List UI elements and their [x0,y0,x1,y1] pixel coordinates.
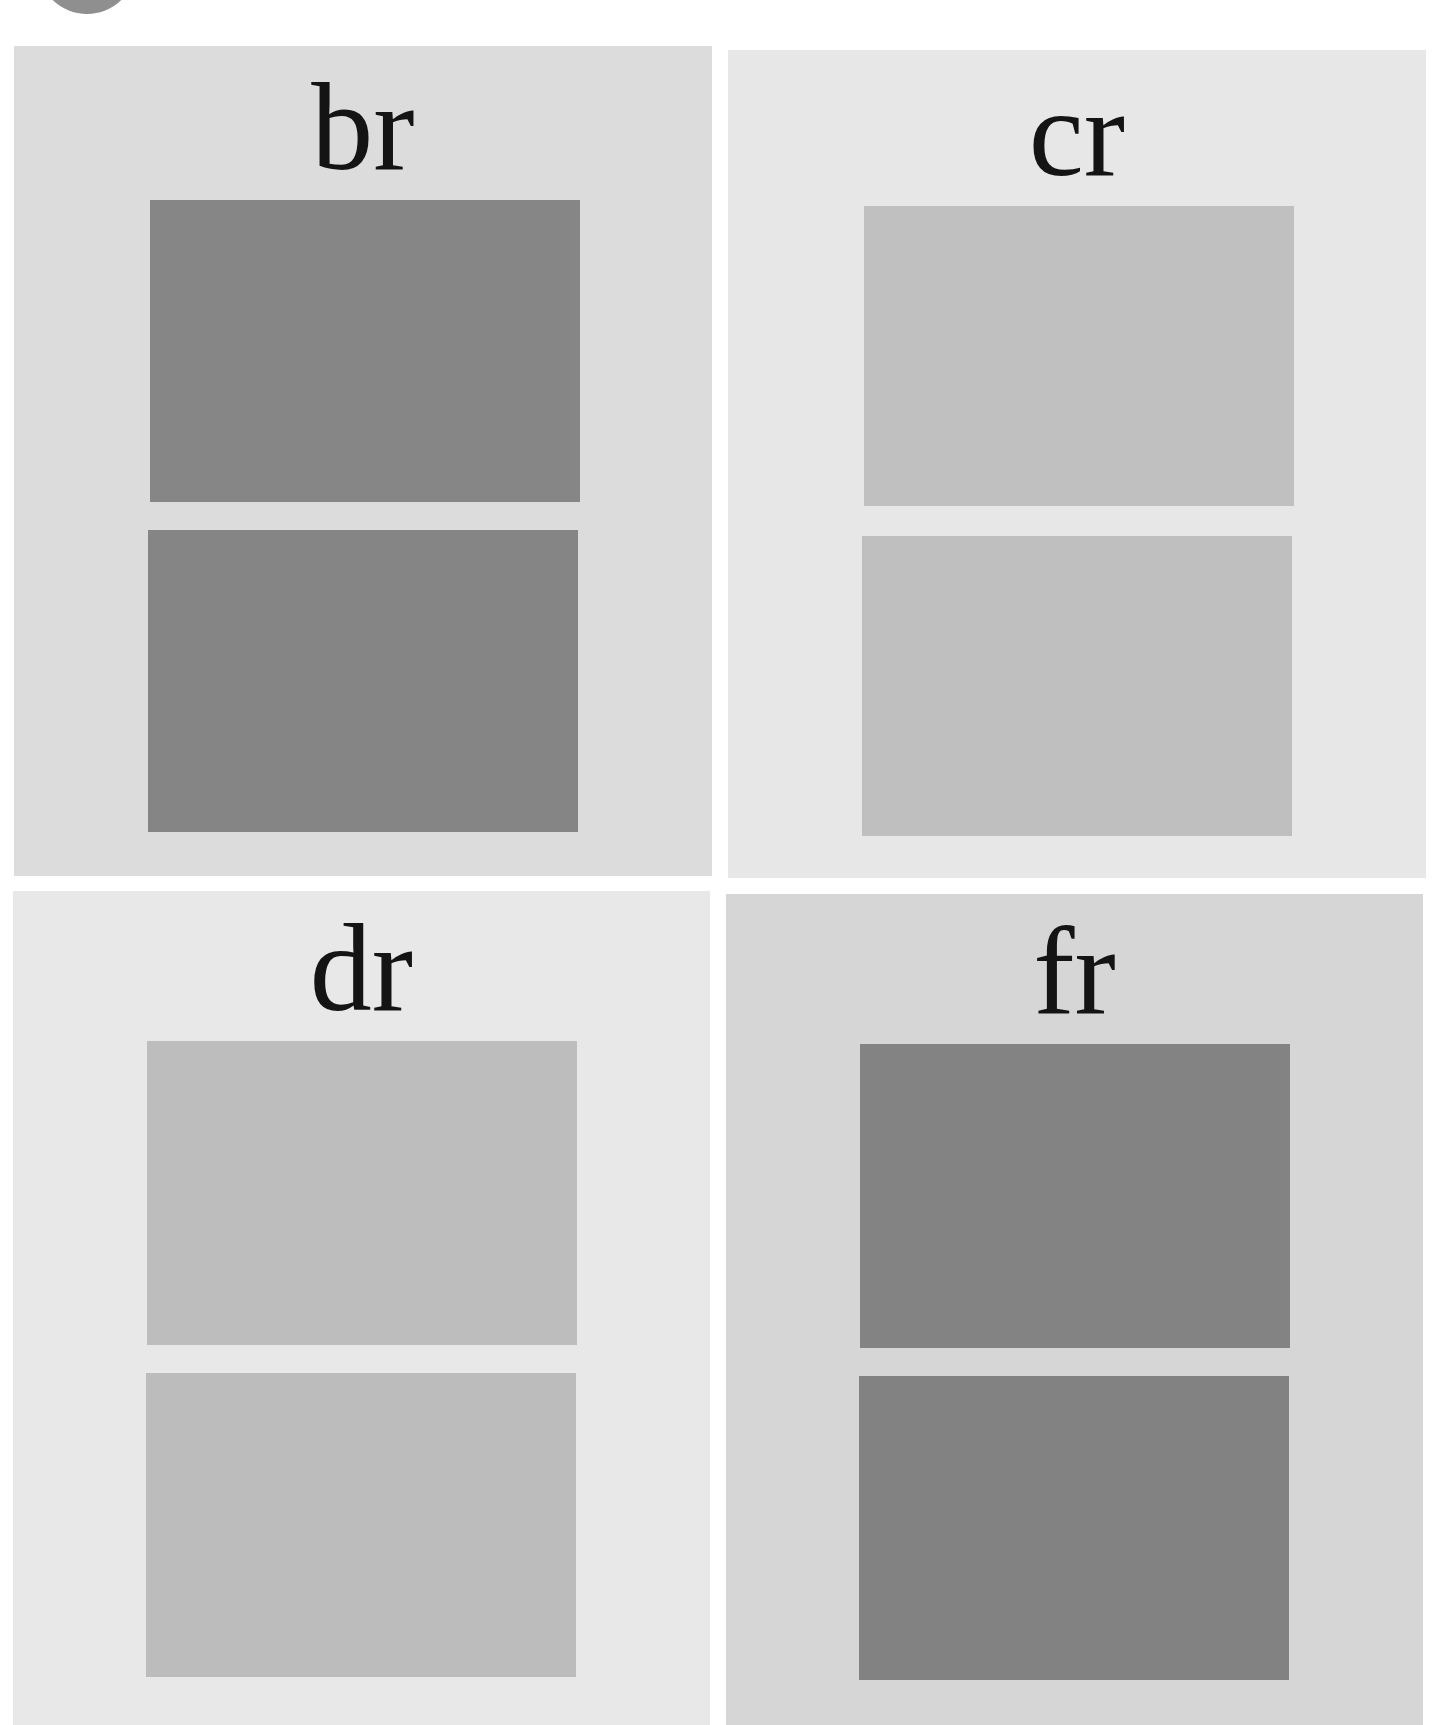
panel-label: br [14,66,712,190]
swatch-top [150,200,580,502]
swatch-top [147,1041,577,1345]
figure-badge [38,0,136,14]
swatch-top [864,206,1294,506]
panel-br: br [14,46,712,876]
swatch-top [860,1044,1290,1348]
swatch-bottom [859,1376,1289,1680]
panel-label: cr [728,72,1426,196]
panel-label: fr [726,910,1423,1034]
panel-label: dr [13,907,710,1031]
panel-fr: fr [726,894,1423,1725]
swatch-bottom [146,1373,576,1677]
swatch-bottom [148,530,578,832]
panel-cr: cr [728,50,1426,878]
panel-dr: dr [13,891,710,1725]
swatch-bottom [862,536,1292,836]
